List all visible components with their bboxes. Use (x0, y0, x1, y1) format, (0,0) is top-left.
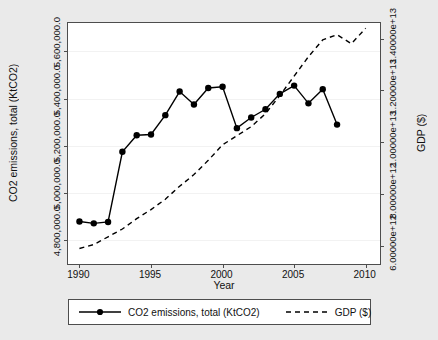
data-point-marker (234, 125, 240, 131)
data-point-marker (148, 131, 154, 137)
tick-right (380, 39, 384, 40)
y-tick-label-right: 1.20000e+13 (388, 59, 398, 115)
tick-bottom (79, 264, 80, 268)
tick-right (380, 90, 384, 91)
data-point-marker (305, 100, 311, 106)
y-tick-label-left: 5,200,000.0 (52, 112, 62, 162)
y-tick-label-left: 5,000,000.0 (52, 159, 62, 209)
chart-legend: CO2 emissions, total (KtCO2) GDP ($) (68, 299, 371, 325)
tick-right (380, 142, 384, 143)
x-tick-label: 1990 (67, 269, 89, 280)
y-tick-label-left: 4,800,000.0 (52, 206, 62, 256)
tick-bottom (151, 264, 152, 268)
series-line-gdp (79, 28, 365, 248)
tick-bottom (366, 264, 367, 268)
y-tick-label-right: 8.00000e+12 (388, 163, 398, 219)
data-point-marker (320, 86, 326, 92)
legend-item-gdp[interactable]: GDP ($) (286, 306, 372, 318)
y-tick-label-right: 1.00000e+13 (388, 111, 398, 167)
x-tick-label: 2010 (354, 269, 376, 280)
data-point-marker (105, 219, 111, 225)
y-tick-label-left: 5,400,000.0 (52, 65, 62, 115)
tick-bottom (223, 264, 224, 268)
data-point-marker (191, 101, 197, 107)
tick-right (380, 194, 384, 195)
legend-swatch-solid-marker (79, 306, 121, 318)
data-point-marker (162, 112, 168, 118)
x-tick-label: 2000 (210, 269, 232, 280)
series-line-co2 (79, 86, 337, 224)
y-tick-label-left: 5,600,000.0 (52, 17, 62, 67)
data-point-marker (134, 132, 140, 138)
data-point-marker (76, 218, 82, 224)
data-point-marker (119, 149, 125, 155)
data-lines (68, 23, 380, 264)
data-point-marker (91, 220, 97, 226)
plot-area (67, 22, 381, 265)
legend-label-gdp: GDP ($) (335, 307, 372, 318)
y-axis-left-title: CO2 emissions, total (KtCO2) (7, 0, 19, 265)
x-axis-title: Year (67, 279, 381, 291)
y-tick-label-right: 6.00000e+12 (388, 215, 398, 271)
x-tick-label: 1995 (139, 269, 161, 280)
data-point-marker (291, 82, 297, 88)
legend-swatch-dashed (286, 306, 328, 318)
data-point-marker (248, 114, 254, 120)
y-axis-right-title: GDP ($) (415, 0, 427, 265)
tick-bottom (294, 264, 295, 268)
y-tick-label-right: 1.40000e+13 (388, 8, 398, 64)
legend-label-co2: CO2 emissions, total (KtCO2) (128, 307, 260, 318)
legend-item-co2[interactable]: CO2 emissions, total (KtCO2) (79, 306, 260, 318)
chart-figure: CO2 emissions, total (KtCO2) GDP ($) Yea… (0, 0, 438, 340)
data-point-marker (176, 88, 182, 94)
data-point-marker (205, 85, 211, 91)
tick-right (380, 246, 384, 247)
data-point-marker (334, 121, 340, 127)
x-tick-label: 2005 (282, 269, 304, 280)
data-point-marker (219, 84, 225, 90)
